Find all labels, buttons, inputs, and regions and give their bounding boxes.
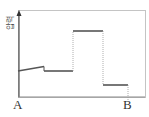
point-b-label: B — [123, 98, 132, 111]
segment-1 — [18, 67, 44, 72]
point-a-label: A — [13, 98, 22, 111]
y-axis-label-text: 압력 — [4, 15, 15, 29]
y-axis-label: 압력 — [3, 9, 15, 35]
